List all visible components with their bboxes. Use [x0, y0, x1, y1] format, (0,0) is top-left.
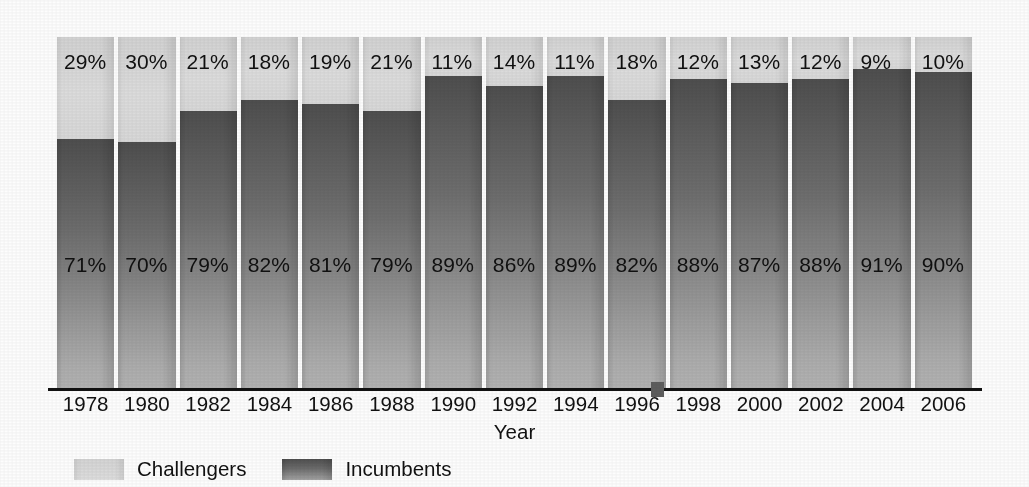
bar-segment-challengers: 9% — [853, 37, 910, 69]
bar-column: 29%71% — [57, 37, 114, 388]
bar-segment-incumbents: 71% — [57, 139, 114, 388]
bar-column: 14%86% — [486, 37, 543, 388]
legend-item-incumbent: Incumbents — [282, 457, 451, 481]
bar-value-label-incumbents: 91% — [860, 254, 902, 275]
bar-segment-incumbents: 79% — [363, 111, 420, 388]
bar-column: 12%88% — [792, 37, 849, 388]
bar-value-label-challengers: 12% — [677, 51, 719, 72]
legend-swatch-incumbent-icon — [282, 459, 332, 480]
x-tick-label: 1988 — [363, 392, 420, 416]
bar-value-label-challengers: 12% — [799, 51, 841, 72]
bar-column: 11%89% — [547, 37, 604, 388]
x-tick-label: 1992 — [486, 392, 543, 416]
bar-column: 18%82% — [241, 37, 298, 388]
bar-value-label-challengers: 11% — [432, 51, 473, 72]
chart-figure: 29%71%30%70%21%79%18%82%19%81%21%79%11%8… — [0, 0, 1029, 487]
x-tick-label: 2006 — [915, 392, 972, 416]
bar-value-label-incumbents: 90% — [922, 254, 964, 275]
legend-label: Incumbents — [345, 457, 451, 481]
x-axis-tick-labels: 1978198019821984198619881990199219941996… — [57, 392, 972, 416]
bar-value-label-incumbents: 89% — [432, 254, 474, 275]
bar-value-label-incumbents: 71% — [64, 254, 106, 275]
x-tick-label: 1982 — [180, 392, 237, 416]
bar-segment-incumbents: 82% — [241, 100, 298, 388]
bar-segment-incumbents: 90% — [915, 72, 972, 388]
x-axis-title: Year — [0, 420, 1029, 444]
x-tick-label: 1986 — [302, 392, 359, 416]
x-tick-label: 2000 — [731, 392, 788, 416]
bar-value-label-challengers: 14% — [493, 51, 535, 72]
x-tick-label: 1994 — [547, 392, 604, 416]
bar-segment-challengers: 21% — [180, 37, 237, 111]
bar-value-label-incumbents: 79% — [187, 254, 229, 275]
bar-segment-challengers: 18% — [608, 37, 665, 100]
bar-column: 10%90% — [915, 37, 972, 388]
bar-value-label-incumbents: 87% — [738, 254, 780, 275]
bar-segment-challengers: 10% — [915, 37, 972, 72]
bar-value-label-challengers: 21% — [187, 51, 229, 72]
x-tick-label: 1990 — [425, 392, 482, 416]
bar-segment-incumbents: 88% — [670, 79, 727, 388]
bar-segment-incumbents: 88% — [792, 79, 849, 388]
stacked-bar-plot-area: 29%71%30%70%21%79%18%82%19%81%21%79%11%8… — [57, 37, 972, 388]
x-tick-label: 1998 — [670, 392, 727, 416]
bar-segment-incumbents: 89% — [547, 76, 604, 388]
bar-value-label-incumbents: 86% — [493, 254, 535, 275]
bar-value-label-challengers: 10% — [922, 51, 964, 72]
bar-segment-challengers: 18% — [241, 37, 298, 100]
bar-value-label-challengers: 18% — [615, 51, 657, 72]
bar-value-label-incumbents: 82% — [248, 254, 290, 275]
bar-value-label-incumbents: 70% — [125, 254, 167, 275]
bar-segment-incumbents: 91% — [853, 69, 910, 388]
x-tick-label: 2004 — [853, 392, 910, 416]
bar-value-label-challengers: 18% — [248, 51, 290, 72]
bar-column: 18%82% — [608, 37, 665, 388]
legend-item-challenger: Challengers — [74, 457, 246, 481]
bar-value-label-incumbents: 79% — [370, 254, 412, 275]
legend-swatch-challenger-icon — [74, 459, 124, 480]
bar-segment-incumbents: 86% — [486, 86, 543, 388]
x-tick-label: 2002 — [792, 392, 849, 416]
bar-segment-challengers: 13% — [731, 37, 788, 83]
bar-value-label-incumbents: 88% — [677, 254, 719, 275]
bar-value-label-incumbents: 88% — [799, 254, 841, 275]
bar-value-label-challengers: 30% — [125, 51, 167, 72]
bar-value-label-incumbents: 82% — [615, 254, 657, 275]
bar-value-label-challengers: 19% — [309, 51, 351, 72]
bar-column: 13%87% — [731, 37, 788, 388]
bar-segment-incumbents: 79% — [180, 111, 237, 388]
bar-value-label-challengers: 11% — [554, 51, 595, 72]
bar-segment-challengers: 29% — [57, 37, 114, 139]
bar-segment-incumbents: 89% — [425, 76, 482, 388]
x-tick-label: 1996 — [608, 392, 665, 416]
bar-segment-challengers: 11% — [547, 37, 604, 76]
bar-segment-incumbents: 70% — [118, 142, 175, 388]
bar-segment-challengers: 12% — [792, 37, 849, 79]
bar-value-label-challengers: 29% — [64, 51, 106, 72]
bar-column: 30%70% — [118, 37, 175, 388]
bar-column: 21%79% — [180, 37, 237, 388]
bar-column: 19%81% — [302, 37, 359, 388]
x-tick-label: 1980 — [118, 392, 175, 416]
chart-legend: ChallengersIncumbents — [74, 457, 451, 481]
bar-column: 9%91% — [853, 37, 910, 388]
bar-segment-incumbents: 82% — [608, 100, 665, 388]
bar-segment-challengers: 19% — [302, 37, 359, 104]
bar-value-label-challengers: 13% — [738, 51, 780, 72]
bar-segment-challengers: 30% — [118, 37, 175, 142]
bar-segment-challengers: 14% — [486, 37, 543, 86]
x-tick-label: 1978 — [57, 392, 114, 416]
bar-value-label-incumbents: 89% — [554, 254, 596, 275]
bar-column: 12%88% — [670, 37, 727, 388]
bar-value-label-challengers: 21% — [370, 51, 412, 72]
x-axis-line — [48, 388, 982, 391]
x-tick-label: 1984 — [241, 392, 298, 416]
bar-value-label-incumbents: 81% — [309, 254, 351, 275]
bar-segment-incumbents: 81% — [302, 104, 359, 388]
bar-segment-challengers: 12% — [670, 37, 727, 79]
bar-column: 11%89% — [425, 37, 482, 388]
legend-label: Challengers — [137, 457, 246, 481]
bar-column: 21%79% — [363, 37, 420, 388]
bar-segment-incumbents: 87% — [731, 83, 788, 388]
bar-segment-challengers: 11% — [425, 37, 482, 76]
